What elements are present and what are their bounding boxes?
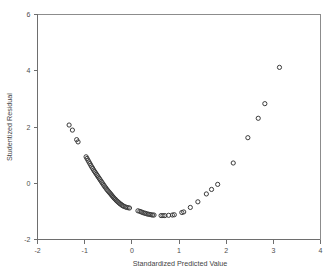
data-points [67, 65, 282, 217]
data-point [256, 116, 260, 120]
data-point [182, 210, 186, 214]
y-tick-label: 4 [27, 67, 31, 74]
data-point [152, 213, 156, 217]
data-point [70, 128, 74, 132]
x-tick-label: 3 [271, 247, 275, 254]
x-tick-label: 1 [177, 247, 181, 254]
x-tick-label: 2 [224, 247, 228, 254]
data-point [196, 200, 200, 204]
data-point [76, 140, 80, 144]
data-point [188, 205, 192, 209]
y-tick-label: 6 [27, 11, 31, 18]
data-point [209, 187, 213, 191]
x-tick-label: 4 [319, 247, 323, 254]
data-point [204, 192, 208, 196]
data-point [172, 213, 176, 217]
data-point [277, 65, 281, 69]
data-point [67, 123, 71, 127]
plot-canvas: -2-101234-20246 Standardized Predicted V… [0, 0, 332, 275]
residual-scatter-plot: -2-101234-20246 Standardized Predicted V… [0, 0, 332, 275]
data-point [216, 182, 220, 186]
data-point [231, 161, 235, 165]
x-tick-label: 0 [130, 247, 134, 254]
x-tick-label: -1 [82, 247, 88, 254]
axis-ticks [34, 15, 321, 244]
y-tick-label: 0 [27, 180, 31, 187]
data-point [127, 206, 131, 210]
plot-frame [38, 15, 321, 240]
y-axis-title: Studentized Residual [5, 93, 14, 161]
y-tick-label: 2 [27, 124, 31, 131]
data-point [263, 102, 267, 106]
x-axis-title: Standardized Predicted Value [133, 259, 228, 268]
y-tick-label: -2 [24, 236, 30, 243]
x-tick-label: -2 [34, 247, 40, 254]
data-point [246, 136, 250, 140]
